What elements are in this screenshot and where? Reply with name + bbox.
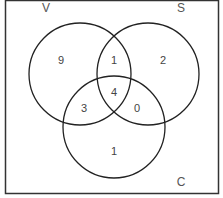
- region-v-s-c: 4: [111, 86, 117, 98]
- region-v-c: 3: [81, 102, 87, 114]
- set-label-v: V: [42, 1, 50, 15]
- set-label-c: C: [177, 175, 186, 189]
- region-c-only: 1: [111, 145, 117, 157]
- region-v-only: 9: [58, 54, 64, 66]
- venn-diagram: V S C 9 2 1 1 3 0 4: [0, 0, 223, 198]
- region-s-c: 0: [134, 102, 140, 114]
- region-v-s: 1: [111, 54, 117, 66]
- set-label-s: S: [177, 1, 185, 15]
- region-s-only: 2: [160, 54, 166, 66]
